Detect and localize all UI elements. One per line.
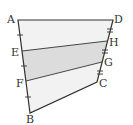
label-c: C — [99, 77, 107, 90]
label-b: B — [26, 113, 34, 125]
label-h: H — [109, 36, 119, 49]
geometry-figure: A D E H G F C B — [0, 0, 133, 125]
label-g: G — [104, 56, 113, 69]
label-a: A — [6, 13, 16, 26]
label-e: E — [11, 46, 19, 59]
label-f: F — [16, 77, 24, 90]
label-d: D — [114, 13, 123, 26]
